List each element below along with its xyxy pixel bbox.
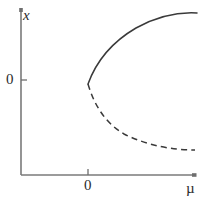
x-axis-variable-label: µ — [186, 181, 195, 196]
y-axis-variable-label: x — [23, 8, 30, 23]
upper-branch-solid-curve — [88, 13, 197, 84]
x-axis-arrow-cap — [192, 173, 197, 177]
lower-branch-dashed-curve — [88, 84, 195, 150]
bifurcation-figure: x 0 0 µ — [0, 0, 205, 202]
y-axis-zero-label: 0 — [6, 72, 14, 87]
x-axis-zero-label: 0 — [84, 178, 92, 193]
plot-canvas — [0, 0, 205, 202]
